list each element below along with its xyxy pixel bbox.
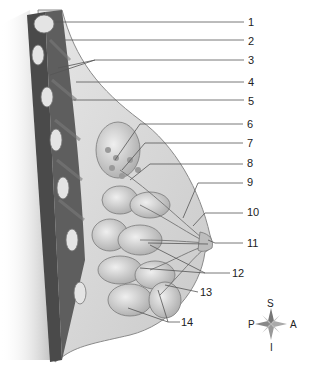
label-10: 10 — [247, 207, 259, 218]
label-14: 14 — [181, 317, 193, 328]
compass-inferior: I — [270, 343, 273, 353]
compass-superior: S — [267, 299, 274, 309]
label-3: 3 — [248, 55, 254, 66]
label-8: 8 — [247, 158, 253, 169]
compass-anterior: A — [290, 320, 297, 330]
label-7: 7 — [247, 138, 253, 149]
breast-anatomy-diagram — [0, 0, 312, 371]
label-4: 4 — [248, 77, 254, 88]
label-6: 6 — [247, 119, 253, 130]
label-12: 12 — [232, 268, 244, 279]
compass-rose-icon — [255, 308, 287, 340]
label-2: 2 — [248, 36, 254, 47]
label-11: 11 — [247, 238, 258, 249]
label-1: 1 — [248, 17, 254, 28]
label-13: 13 — [200, 287, 212, 298]
label-5: 5 — [248, 96, 254, 107]
label-9: 9 — [247, 177, 253, 188]
compass-posterior: P — [248, 320, 255, 330]
